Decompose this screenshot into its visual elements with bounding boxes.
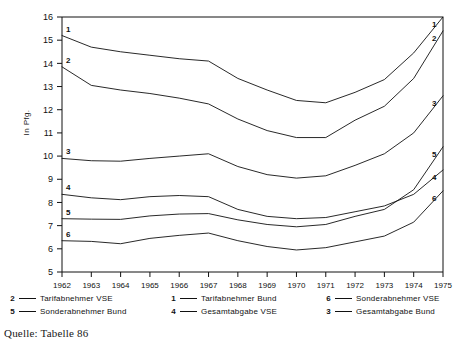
y-tick-label: 9: [48, 174, 53, 184]
y-tick-label: 15: [43, 35, 53, 45]
series-start-tag: 6: [66, 230, 71, 239]
y-tick-label: 13: [43, 82, 53, 92]
series-labels: 112233445566: [66, 20, 437, 239]
legend-label: Tarifabnehmer VSE: [40, 294, 113, 303]
legend-label: Tarifabnehmer Bund: [201, 294, 277, 303]
y-tick-label: 8: [48, 198, 53, 208]
legend-item: 2 Tarifabnehmer VSE: [6, 292, 127, 305]
legend-item: 5 Sonderabnehmer Bund: [6, 305, 127, 318]
y-tick-label: 10: [43, 151, 53, 161]
legend-line-swatch: [19, 298, 36, 299]
y-tick-label: 16: [43, 12, 53, 22]
legend-line-swatch: [335, 311, 352, 312]
x-axis: 1962196319641965196619671968196919701971…: [53, 272, 452, 290]
legend-key: 1: [167, 294, 176, 303]
series-end-tag: 4: [432, 173, 437, 182]
legend-key: 3: [322, 307, 331, 316]
x-tick-label: 1962: [53, 281, 71, 290]
x-tick-label: 1975: [434, 281, 452, 290]
x-tick-label: 1965: [141, 281, 159, 290]
legend-key: 4: [167, 307, 176, 316]
series-line: [62, 147, 443, 227]
series-end-tag: 3: [432, 99, 437, 108]
x-tick-label: 1971: [317, 281, 335, 290]
x-tick-label: 1974: [405, 281, 423, 290]
series-start-tag: 5: [66, 208, 71, 217]
x-tick-label: 1970: [288, 281, 306, 290]
legend-line-swatch: [180, 311, 197, 312]
series-end-tag: 5: [432, 150, 437, 159]
source-note: Quelle: Tabelle 86: [4, 327, 89, 339]
chart-legend: 2 Tarifabnehmer VSE 5 Sonderabnehmer Bun…: [0, 292, 463, 318]
series-end-tag: 1: [432, 20, 437, 29]
y-tick-label: 14: [43, 59, 53, 69]
y-axis: 5678910111213141516: [43, 12, 62, 277]
legend-label: Gesamtabgabe VSE: [201, 307, 277, 316]
figure-container: In Pfg. 56789101112131415161962196319641…: [0, 0, 463, 350]
legend-line-swatch: [335, 298, 352, 299]
y-tick-label: 6: [48, 244, 53, 254]
legend-column-2: 1 Tarifabnehmer Bund 4 Gesamtabgabe VSE: [167, 292, 277, 318]
legend-key: 6: [322, 294, 331, 303]
x-tick-label: 1966: [170, 281, 188, 290]
legend-label: Gesamtabgabe Bund: [356, 307, 435, 316]
y-tick-label: 11: [44, 128, 53, 138]
x-tick-label: 1973: [375, 281, 393, 290]
series-start-tag: 4: [66, 183, 71, 192]
legend-item: 6 Sonderabnehmer VSE: [322, 292, 440, 305]
x-tick-label: 1967: [200, 281, 218, 290]
x-tick-label: 1968: [229, 281, 247, 290]
y-tick-label: 12: [43, 105, 53, 115]
legend-column-3: 6 Sonderabnehmer VSE 3 Gesamtabgabe Bund: [322, 292, 440, 318]
series-line: [62, 170, 443, 219]
legend-line-swatch: [180, 298, 197, 299]
legend-key: 2: [6, 294, 15, 303]
y-axis-title: In Pfg.: [22, 93, 31, 153]
x-tick-label: 1964: [112, 281, 130, 290]
legend-label: Sonderabnehmer Bund: [40, 307, 127, 316]
series-group: [62, 17, 443, 250]
legend-item: 4 Gesamtabgabe VSE: [167, 305, 277, 318]
series-start-tag: 1: [66, 25, 71, 34]
legend-column-1: 2 Tarifabnehmer VSE 5 Sonderabnehmer Bun…: [6, 292, 127, 318]
legend-item: 3 Gesamtabgabe Bund: [322, 305, 440, 318]
x-tick-label: 1969: [258, 281, 276, 290]
series-start-tag: 3: [66, 147, 71, 156]
legend-label: Sonderabnehmer VSE: [356, 294, 440, 303]
y-tick-label: 5: [48, 267, 53, 277]
series-start-tag: 2: [66, 56, 71, 65]
chart-area: In Pfg. 56789101112131415161962196319641…: [0, 0, 463, 290]
x-tick-label: 1972: [346, 281, 364, 290]
series-line: [62, 96, 443, 178]
legend-item: 1 Tarifabnehmer Bund: [167, 292, 277, 305]
series-end-tag: 6: [432, 194, 437, 203]
y-tick-label: 7: [48, 221, 53, 231]
line-chart: 5678910111213141516196219631964196519661…: [0, 0, 463, 290]
legend-key: 5: [6, 307, 15, 316]
series-end-tag: 2: [432, 34, 437, 43]
legend-line-swatch: [19, 311, 36, 312]
x-tick-label: 1963: [82, 281, 100, 290]
plot-frame: [62, 17, 443, 272]
